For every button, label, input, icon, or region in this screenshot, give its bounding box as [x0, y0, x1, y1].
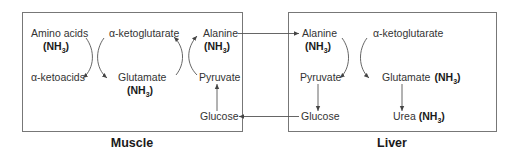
liver-urea-label: Urea(NH3) [393, 110, 445, 124]
liver-title: Liver [377, 136, 407, 150]
arrow-ketoglutarate-to-glutamate [98, 38, 107, 78]
liver-glucose-label: Glucose [301, 110, 340, 122]
muscle-alpha-ketoglutarate-label: α-ketoglutarate [109, 27, 179, 39]
muscle-alanine-nh3: (NH3) [204, 40, 230, 54]
glucose-alanine-cycle-diagram: Amino acids (NH3) α-ketoacids α-ketoglut… [0, 0, 513, 154]
liver-alanine-nh3: (NH3) [305, 40, 331, 54]
muscle-alpha-ketoacids-label: α-ketoacids [31, 71, 85, 83]
arrow-pyruvate-to-alanine [189, 36, 197, 75]
muscle-glutamate-nh3: (NH3) [127, 84, 153, 98]
liver-glutamate-label: Glutamate(NH3) [382, 71, 461, 85]
muscle-glutamate-label: Glutamate [118, 71, 167, 83]
liver-alanine-label: Alanine [302, 27, 337, 39]
muscle-title: Muscle [111, 136, 153, 150]
arrow-ketoglutarate-to-glutamate-liver [360, 38, 369, 78]
muscle-alanine-label: Alanine [203, 27, 238, 39]
liver-pyruvate-label: Pyruvate [300, 71, 342, 83]
muscle-pyruvate-label: Pyruvate [199, 71, 241, 83]
muscle-glucose-label: Glucose [200, 110, 239, 122]
liver-alpha-ketoglutarate-label: α-ketoglutarate [373, 27, 443, 39]
muscle-amino-acids-label: Amino acids [31, 27, 88, 39]
arrow-glutamate-to-ketoglutarate [174, 37, 183, 75]
muscle-amino-acids-nh3: (NH3) [43, 40, 69, 54]
